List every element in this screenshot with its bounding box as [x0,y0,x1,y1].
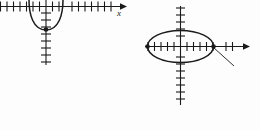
left-parabola-plot [0,0,130,130]
chart-panel-right: 0.5 0.5 x [130,0,260,130]
right-annotation-leader-line [214,48,234,66]
right-ellipse-plot [130,0,260,130]
right-x-axis-arrowhead [243,43,250,49]
figure-canvas: x [0,0,260,130]
right-ellipse-left-intercept-marker [145,44,150,49]
right-ellipse-right-intercept-marker [211,44,216,49]
chart-panel-left: x [0,0,130,130]
left-x-axis-label: x [117,9,121,18]
left-x-axis-arrowhead [120,3,127,9]
left-vertex-marker [44,27,49,32]
